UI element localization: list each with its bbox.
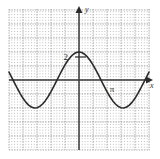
coordinate-plane: y x 2 π bbox=[0, 0, 160, 159]
y-tick-label-2: 2 bbox=[64, 52, 69, 62]
y-axis-label: y bbox=[84, 5, 89, 14]
x-axis-label: x bbox=[149, 81, 154, 90]
x-tick-label-pi: π bbox=[110, 84, 115, 94]
graph-figure: y x 2 π bbox=[0, 0, 160, 159]
